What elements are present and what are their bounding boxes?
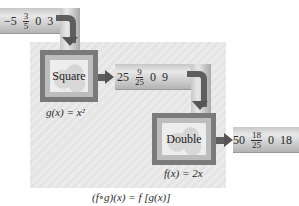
output-values: 50 1825 0 18 — [233, 129, 292, 151]
square-output-arrow-icon — [105, 70, 114, 84]
double-machine: Double — [152, 113, 216, 165]
double-output-arrow-icon — [224, 133, 233, 147]
output-value-3: 18 — [280, 133, 292, 148]
intermediate-value-1: 925 — [135, 68, 144, 87]
input-value-3: 3 — [47, 14, 53, 29]
intermediate-value-3: 9 — [162, 70, 168, 85]
input-value-2: 0 — [35, 14, 41, 29]
input-value-1: 35 — [23, 12, 30, 31]
output-value-0: 50 — [233, 133, 245, 148]
double-machine-label: Double — [166, 132, 201, 147]
input-value-0: −5 — [4, 14, 17, 29]
square-machine: Square — [40, 50, 98, 102]
input-arrow-head-icon — [62, 37, 78, 46]
output-value-2: 0 — [268, 133, 274, 148]
intermediate-value-0: 25 — [117, 70, 129, 85]
square-machine-gears: Square — [50, 60, 88, 92]
composition-caption: (f∘g)(x) = f [g(x)] — [92, 191, 170, 204]
f-formula: f(x) = 2x — [164, 167, 203, 179]
intermediate-value-2: 0 — [150, 70, 156, 85]
double-machine-gears: Double — [162, 123, 206, 155]
square-output-arrow-shaft — [98, 74, 105, 81]
intermediate-values: 25 925 0 9 — [117, 66, 168, 88]
square-machine-label: Square — [52, 69, 85, 84]
input-values: −5 35 0 3 — [4, 10, 53, 32]
double-output-arrow-shaft — [216, 137, 224, 144]
g-formula: g(x) = x² — [46, 106, 85, 118]
intermediate-arrow-head-icon — [192, 101, 208, 110]
output-value-1: 1825 — [251, 131, 262, 150]
